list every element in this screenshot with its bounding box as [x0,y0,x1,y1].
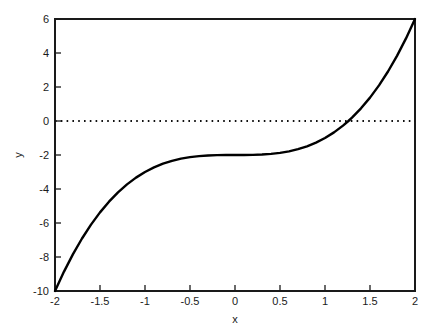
x-tick-label: -1.5 [91,295,110,307]
x-tick-label: 2 [412,295,418,307]
x-tick-label: -2 [50,295,60,307]
x-tick-label: -0.5 [181,295,200,307]
cubic-function-plot: 6 4 2 0 -2 -4 -6 -8 -10 -2 -1.5 -1 -0.5 … [0,0,432,329]
x-tick-label: -1 [140,295,150,307]
y-tick-label: -8 [39,251,49,263]
x-tick-label: 1.5 [362,295,377,307]
y-tick-label: -4 [39,183,49,195]
y-tick-label: -10 [33,285,49,297]
x-axis-tick-labels: -2 -1.5 -1 -0.5 0 0.5 1 1.5 2 [50,295,418,307]
figure-background [0,0,432,329]
chart-figure: 6 4 2 0 -2 -4 -6 -8 -10 -2 -1.5 -1 -0.5 … [0,0,432,329]
y-tick-label: 4 [43,47,49,59]
x-tick-label: 1 [322,295,328,307]
y-axis-title: y [12,152,24,158]
y-tick-label: 0 [43,115,49,127]
y-tick-label: 6 [43,13,49,25]
x-tick-label: 0.5 [272,295,287,307]
x-tick-label: 0 [232,295,238,307]
y-tick-label: -6 [39,217,49,229]
y-tick-label: 2 [43,81,49,93]
y-tick-label: -2 [39,149,49,161]
x-axis-title: x [232,313,238,325]
